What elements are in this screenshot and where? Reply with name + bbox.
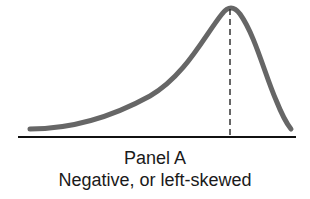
skew-chart [0, 0, 310, 145]
panel-subtitle: Negative, or left-skewed [0, 170, 310, 191]
panel-title: Panel A [0, 148, 310, 169]
distribution-curve [30, 8, 291, 129]
